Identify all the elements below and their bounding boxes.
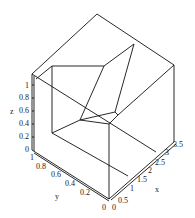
y-tick-label: 0 [102, 203, 106, 212]
z-tick-label: 0.4 [19, 119, 29, 128]
y-tick-label: 0.6 [51, 170, 61, 179]
y-tick-label: 1 [30, 153, 34, 162]
x-tick-label: 3.5 [173, 140, 183, 149]
z-tick-label: 0.8 [19, 93, 29, 102]
x-tick-label: 2 [148, 166, 152, 175]
z-tick-label: 0.2 [19, 132, 29, 141]
x-axis-label: x [155, 185, 159, 194]
y-tick-label: 0.8 [36, 162, 46, 171]
z-tick-label: 0 [25, 145, 29, 154]
x-tick-label: 0 [112, 203, 116, 212]
y-axis: 1 0.8 0.6 0.4 0.2 0 y [30, 153, 106, 212]
surface-plot-3d: 1 0.8 0.6 0.4 0.2 0 z 1 0.8 0.6 0.4 0.2 … [0, 0, 195, 218]
plot-canvas: 1 0.8 0.6 0.4 0.2 0 z 1 0.8 0.6 0.4 0.2 … [0, 0, 195, 218]
x-tick-label: 2.5 [155, 158, 165, 167]
z-axis-label: z [10, 107, 14, 116]
z-tick-label: 1 [25, 81, 29, 90]
x-tick-label: 3 [165, 148, 169, 157]
z-axis: 1 0.8 0.6 0.4 0.2 0 z [10, 81, 34, 154]
z-tick-label: 0.6 [19, 106, 29, 115]
x-tick-label: 0.5 [118, 196, 128, 205]
y-tick-label: 0.4 [65, 179, 75, 188]
y-tick-label: 0.2 [80, 188, 90, 197]
x-axis: 0 0.5 1 1.5 2 2.5 3 3.5 x [112, 140, 183, 212]
y-axis-label: y [55, 192, 59, 201]
x-tick-label: 1 [130, 184, 134, 193]
x-tick-label: 1.5 [137, 175, 147, 184]
